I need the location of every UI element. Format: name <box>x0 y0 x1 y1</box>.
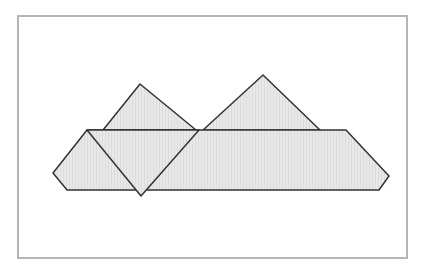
diagram-canvas <box>0 0 428 266</box>
